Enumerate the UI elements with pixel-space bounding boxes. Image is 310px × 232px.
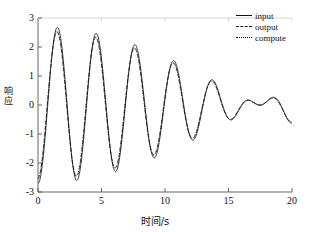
legend-label: input [255,11,274,21]
y-tick-label: 3 [14,13,34,23]
x-tick-label: 5 [88,196,116,206]
data-curves [38,27,292,183]
legend-item-output: output [236,22,286,32]
series-line-input [38,27,292,183]
y-axis-title-char-1: 响 [1,86,15,96]
chart-legend: inputoutputcompute [236,11,286,43]
legend-label: output [255,22,278,32]
legend-line-sample-icon [236,12,252,20]
series-line-compute [38,32,292,178]
axes [38,18,292,192]
legend-item-compute: compute [236,33,286,43]
legend-item-input: input [236,11,286,21]
y-tick-label: 0 [14,100,34,110]
y-axis-title-char-2: 应 [1,96,15,106]
y-tick-label: 2 [14,42,34,52]
x-tick-label: 10 [151,196,179,206]
x-axis-title: 时间/s [0,213,310,228]
legend-label: compute [255,33,286,43]
x-tick-label: 20 [278,196,306,206]
legend-line-sample-icon [236,23,252,31]
y-tick-label: 1 [14,71,34,81]
y-tick-label: -2 [14,158,34,168]
chart-figure: 3210-1-2-3 05101520 响 应 时间/s inputoutput… [0,0,310,232]
series-line-output [38,32,292,179]
x-tick-label: 0 [24,196,52,206]
legend-line-sample-icon [236,34,252,42]
tick-marks [38,18,292,192]
y-tick-label: -1 [14,129,34,139]
y-axis-title: 响 应 [1,86,15,106]
x-tick-label: 15 [215,196,243,206]
